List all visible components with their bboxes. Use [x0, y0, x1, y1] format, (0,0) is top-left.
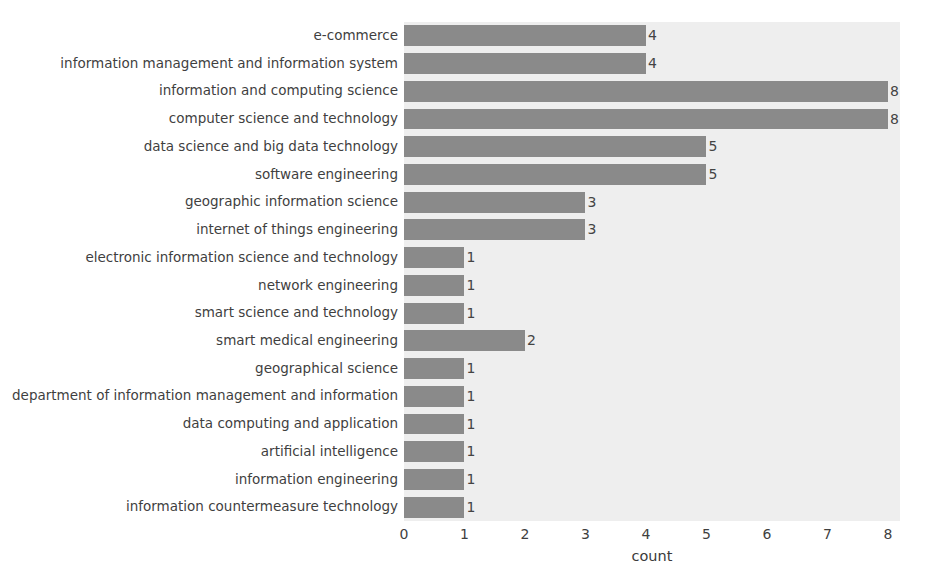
bar-row: smart science and technology1 [0, 299, 933, 327]
y-tick-label-slot: computer science and technology [0, 105, 404, 133]
bar-row: software engineering5 [0, 161, 933, 189]
bar-value-label: 1 [464, 247, 475, 268]
y-tick-label-slot: information engineering [0, 466, 404, 494]
y-tick-label-slot: e-commerce [0, 22, 404, 50]
bar [404, 192, 585, 213]
y-tick-label-slot: information management and information s… [0, 50, 404, 78]
bar-value-label: 8 [888, 81, 899, 102]
x-tick-label: 3 [570, 526, 600, 542]
bar [404, 275, 464, 296]
bar [404, 25, 646, 46]
y-tick-label: information engineering [235, 466, 398, 494]
bar [404, 136, 706, 157]
y-tick-label: e-commerce [314, 22, 398, 50]
y-tick-label-slot: information and computing science [0, 77, 404, 105]
bar [404, 164, 706, 185]
y-tick-label-slot: smart science and technology [0, 299, 404, 327]
y-tick-label: information countermeasure technology [126, 493, 398, 521]
bar-row: department of information management and… [0, 382, 933, 410]
bar-value-label: 5 [706, 136, 717, 157]
bar-value-label: 1 [464, 275, 475, 296]
bar-value-label: 1 [464, 414, 475, 435]
bar [404, 414, 464, 435]
bar [404, 358, 464, 379]
bar-value-label: 1 [464, 386, 475, 407]
y-tick-label-slot: internet of things engineering [0, 216, 404, 244]
x-tick-label: 1 [449, 526, 479, 542]
bar [404, 247, 464, 268]
y-tick-label-slot: geographic information science [0, 188, 404, 216]
y-tick-label: department of information management and… [12, 382, 398, 410]
x-tick-label: 7 [812, 526, 842, 542]
bar-row: electronic information science and techn… [0, 244, 933, 272]
x-tick-label: 2 [510, 526, 540, 542]
x-tick-label: 0 [389, 526, 419, 542]
bar-value-label: 5 [706, 164, 717, 185]
y-tick-label: network engineering [258, 272, 398, 300]
y-tick-label-slot: information countermeasure technology [0, 493, 404, 521]
y-tick-label-slot: network engineering [0, 272, 404, 300]
y-tick-label: geographic information science [185, 188, 398, 216]
y-tick-label: electronic information science and techn… [85, 244, 398, 272]
y-tick-label: artificial intelligence [261, 438, 398, 466]
bar [404, 330, 525, 351]
bar [404, 219, 585, 240]
bar-row: data science and big data technology5 [0, 133, 933, 161]
bar-value-label: 1 [464, 497, 475, 518]
bar [404, 303, 464, 324]
bar-value-label: 4 [646, 53, 657, 74]
bar-row: geographic information science3 [0, 188, 933, 216]
bar-value-label: 3 [585, 192, 596, 213]
y-tick-label-slot: electronic information science and techn… [0, 244, 404, 272]
bar-row: geographical science1 [0, 355, 933, 383]
bar [404, 386, 464, 407]
bar-row: artificial intelligence1 [0, 438, 933, 466]
y-tick-label: data computing and application [183, 410, 398, 438]
y-tick-label: information and computing science [159, 77, 398, 105]
x-tick-label: 6 [752, 526, 782, 542]
bar-row: information and computing science8 [0, 77, 933, 105]
y-tick-label: information management and information s… [60, 50, 398, 78]
y-tick-label: smart medical engineering [216, 327, 398, 355]
bar [404, 53, 646, 74]
bar-value-label: 1 [464, 441, 475, 462]
x-axis-title: count [404, 548, 900, 564]
bar-value-label: 2 [525, 330, 536, 351]
bar-chart-figure: Programme e-commerce4information managem… [0, 0, 933, 587]
y-tick-label-slot: smart medical engineering [0, 327, 404, 355]
y-tick-label: data science and big data technology [144, 133, 398, 161]
y-tick-label: smart science and technology [195, 299, 398, 327]
y-tick-label-slot: data computing and application [0, 410, 404, 438]
bar-value-label: 4 [646, 25, 657, 46]
bar-row: information management and information s… [0, 50, 933, 78]
bar-value-label: 1 [464, 358, 475, 379]
x-tick-label: 8 [873, 526, 903, 542]
bar-row: network engineering1 [0, 272, 933, 300]
y-tick-label-slot: geographical science [0, 355, 404, 383]
y-tick-label-slot: artificial intelligence [0, 438, 404, 466]
bar [404, 109, 888, 130]
bar [404, 441, 464, 462]
y-tick-label: geographical science [255, 355, 398, 383]
bar [404, 469, 464, 490]
bar-row: data computing and application1 [0, 410, 933, 438]
bar-row: information countermeasure technology1 [0, 493, 933, 521]
bar-value-label: 1 [464, 469, 475, 490]
bar-row: information engineering1 [0, 466, 933, 494]
x-tick-label: 4 [631, 526, 661, 542]
bar-row: e-commerce4 [0, 22, 933, 50]
y-tick-label-slot: data science and big data technology [0, 133, 404, 161]
x-tick-label: 5 [691, 526, 721, 542]
bar [404, 81, 888, 102]
bar-row: internet of things engineering3 [0, 216, 933, 244]
bar-value-label: 3 [585, 219, 596, 240]
y-tick-label-slot: software engineering [0, 161, 404, 189]
bar-row: computer science and technology8 [0, 105, 933, 133]
y-tick-label: internet of things engineering [196, 216, 398, 244]
bar [404, 497, 464, 518]
bar-value-label: 1 [464, 303, 475, 324]
bar-value-label: 8 [888, 109, 899, 130]
y-tick-label: computer science and technology [169, 105, 398, 133]
bar-row: smart medical engineering2 [0, 327, 933, 355]
y-tick-label-slot: department of information management and… [0, 382, 404, 410]
